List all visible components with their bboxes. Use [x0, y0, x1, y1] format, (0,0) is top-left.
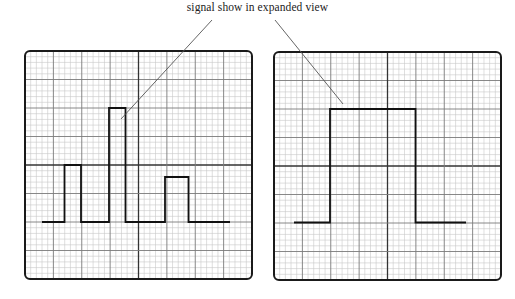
oscilloscope-diagram — [0, 0, 515, 299]
grid — [25, 51, 252, 279]
overview-scope-panel — [25, 51, 252, 279]
expanded-scope-panel — [274, 52, 501, 280]
annotation-pointer-lines — [121, 20, 343, 119]
grid — [274, 52, 501, 280]
